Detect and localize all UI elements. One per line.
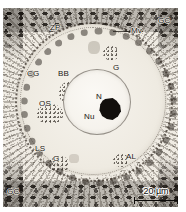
micrograph-image: ZP GC Mv CG BB G OS N Nu LS G AL GC	[3, 8, 178, 207]
scale-bar-tick-right	[177, 197, 178, 204]
label-lamellar-structures: LS	[35, 145, 45, 153]
label-zona-pellucida: ZP	[50, 24, 61, 32]
label-cortical-granules: CG	[27, 70, 39, 78]
label-annulate-lamellae: AL	[126, 153, 136, 161]
leader-line-microvilli	[113, 31, 130, 32]
organelle-cluster-golgi-upper	[103, 46, 119, 60]
organelle-blob-lower-center	[69, 154, 79, 163]
scale-bar-label: 20 µm	[131, 186, 181, 196]
label-nucleolus: Nu	[84, 113, 95, 121]
label-granulosa-cells-bottom: GC	[7, 188, 19, 196]
scale-bar-rule	[134, 200, 178, 201]
label-golgi-lower: G	[53, 155, 59, 163]
label-microvilli: Mv	[131, 27, 142, 35]
label-balbiani-body: BB	[58, 70, 69, 78]
figure-panel: ZP GC Mv CG BB G OS N Nu LS G AL GC 20 µ…	[0, 0, 186, 212]
scale-bar-tick-left	[134, 197, 135, 204]
label-golgi-upper: G	[113, 64, 119, 72]
nucleus-outline	[63, 69, 131, 135]
label-ooplasmic-sheets: OS	[39, 100, 51, 108]
label-granulosa-cells-top: GC	[158, 17, 170, 25]
scale-bar: 20 µm	[131, 186, 181, 207]
label-nucleus: N	[96, 93, 102, 101]
organelle-blob-upper-center	[88, 41, 100, 54]
